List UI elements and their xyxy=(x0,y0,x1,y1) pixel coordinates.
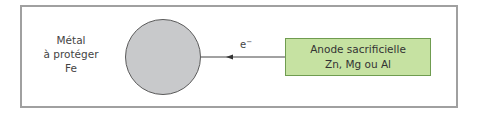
sacrificial-anode-box: Anode sacrificielle Zn, Mg ou Al xyxy=(285,38,431,76)
anode-title: Anode sacrificielle xyxy=(286,42,430,57)
electron-charge: − xyxy=(246,38,252,46)
anode-materials: Zn, Mg ou Al xyxy=(286,57,430,72)
electron-label: e− xyxy=(240,39,252,50)
arrow-left-icon xyxy=(226,55,233,60)
